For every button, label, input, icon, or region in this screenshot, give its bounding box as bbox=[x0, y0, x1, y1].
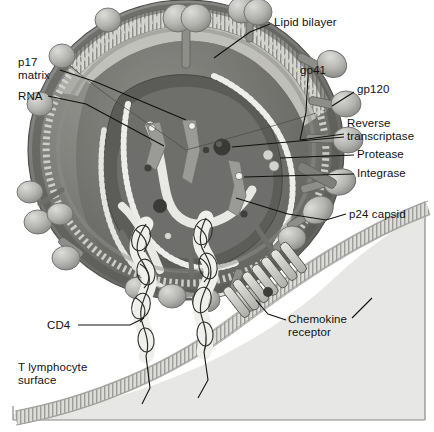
figure-canvas: Lipid bilayer p17matrix RNA gp41 gp120 R… bbox=[0, 0, 434, 432]
label-integrase: Integrase bbox=[357, 167, 406, 180]
label-gp120: gp120 bbox=[357, 83, 389, 96]
integrase-bead bbox=[240, 210, 247, 217]
label-p17-matrix: p17matrix bbox=[18, 56, 50, 81]
gp120-knob bbox=[95, 8, 121, 32]
label-t-lymphocyte-surface: T lymphocytesurface bbox=[18, 361, 87, 386]
integrase-bead bbox=[164, 232, 171, 239]
label-reverse-transcriptase: Reversetranscriptase bbox=[347, 117, 414, 142]
integrase bbox=[235, 172, 242, 179]
gp120-knob bbox=[47, 203, 73, 225]
integrase-bead bbox=[189, 123, 196, 130]
reverse-transcriptase bbox=[213, 138, 230, 155]
integrase-bead bbox=[203, 147, 209, 153]
gp120-knob bbox=[17, 181, 43, 203]
gp120-knob bbox=[158, 284, 186, 308]
reverse-transcriptase bbox=[153, 199, 167, 213]
label-protease: Protease bbox=[357, 148, 404, 161]
label-rna: RNA bbox=[18, 90, 43, 103]
label-gp41: gp41 bbox=[300, 64, 326, 77]
gp120-knob bbox=[244, 0, 272, 25]
label-chemokine-receptor: Chemokinereceptor bbox=[288, 313, 347, 338]
integrase-bead bbox=[144, 164, 151, 171]
protease bbox=[263, 150, 273, 160]
gp120-knob bbox=[49, 44, 75, 68]
chemokine-receptor-knob bbox=[263, 287, 273, 297]
label-lipid-bilayer: Lipid bilayer bbox=[274, 16, 337, 29]
label-p24-capsid: p24 capsid bbox=[349, 208, 406, 221]
label-cd4: CD4 bbox=[47, 319, 70, 332]
gp120-knob bbox=[181, 4, 211, 32]
protease bbox=[269, 161, 279, 171]
gp120-knob bbox=[52, 246, 80, 270]
